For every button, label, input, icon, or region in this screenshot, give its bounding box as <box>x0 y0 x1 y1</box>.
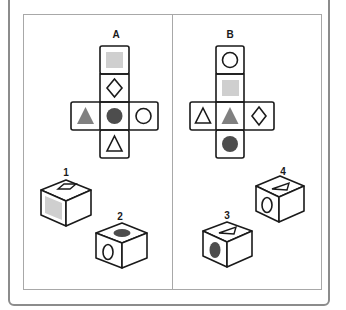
cube-2-label: 2 <box>117 211 123 222</box>
outline-triangle-icon <box>196 108 211 123</box>
outline-triangle-icon <box>107 136 122 151</box>
cube-2[interactable]: 2 <box>96 211 147 268</box>
cube-3[interactable]: 3 <box>203 210 252 267</box>
panel-a: A 1 2 <box>41 29 158 268</box>
cube-3-label: 3 <box>224 210 230 221</box>
gray-square-icon <box>106 52 123 68</box>
gray-triangle-icon <box>222 107 239 124</box>
outline-diamond-icon <box>107 79 122 97</box>
outline-circle-icon <box>223 53 238 68</box>
gray-square-icon <box>222 80 239 96</box>
panel-a-label: A <box>112 29 119 40</box>
cube-4[interactable]: 4 <box>256 166 304 222</box>
dark-circle-icon <box>222 136 238 152</box>
panel-b-label: B <box>226 29 233 40</box>
dark-circle-icon <box>210 242 221 258</box>
dark-circle-icon <box>114 229 131 237</box>
cube-1[interactable]: 1 <box>41 167 91 226</box>
cube-1-label: 1 <box>63 167 69 178</box>
outline-diamond-icon <box>252 107 266 125</box>
cube-4-label: 4 <box>280 166 286 177</box>
dark-circle-icon <box>107 108 123 124</box>
outline-circle-icon <box>136 109 151 124</box>
panel-b: B 3 4 <box>190 29 304 267</box>
gray-triangle-icon <box>77 107 94 124</box>
